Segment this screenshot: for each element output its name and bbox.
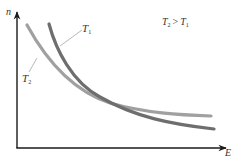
distribution-diagram xyxy=(0,0,238,161)
curve-label-t2: T2 xyxy=(22,73,31,85)
curve-t1 xyxy=(49,24,214,129)
temperature-relation: T2>T1 xyxy=(162,17,189,28)
relation-operator: > xyxy=(173,16,179,27)
curve-label-t1-sub: 1 xyxy=(88,29,91,35)
relation-right-sub: 1 xyxy=(186,22,189,28)
y-axis-label-text: n xyxy=(6,6,11,17)
leader-line-t1 xyxy=(60,30,82,46)
relation-left-sub: 2 xyxy=(168,22,171,28)
x-axis-label: E xyxy=(225,148,231,158)
curve-label-t1: T1 xyxy=(82,23,91,35)
leader-line-t2 xyxy=(29,58,37,72)
curve-label-t2-sub: 2 xyxy=(28,79,31,85)
y-axis-label: n xyxy=(6,7,11,17)
x-axis-label-text: E xyxy=(225,147,231,158)
